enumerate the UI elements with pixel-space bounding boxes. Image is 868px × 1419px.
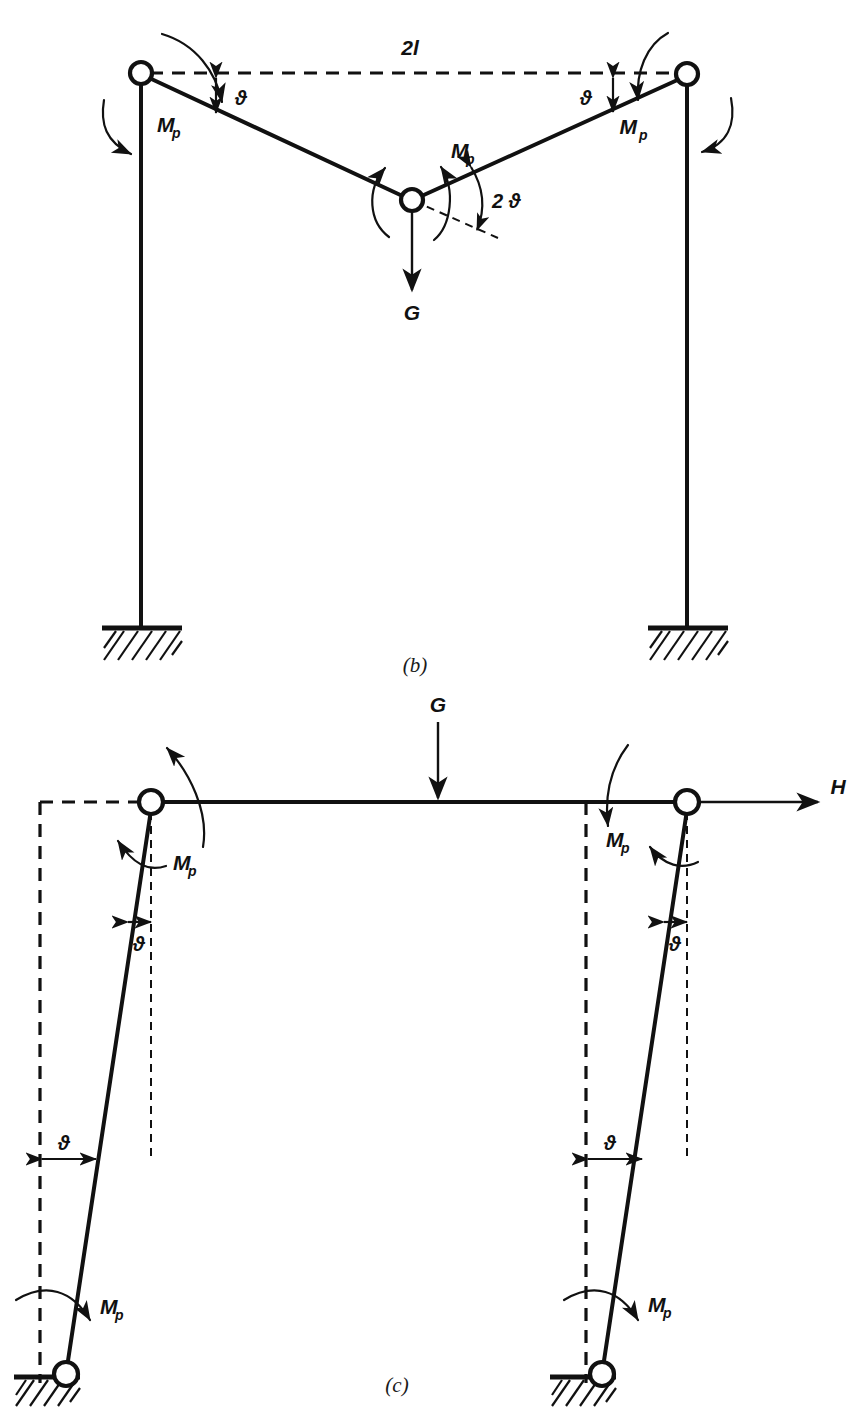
left-mid-rotation-label-c: ϑ [57, 1132, 71, 1154]
right-eaves-hinge-b [676, 63, 698, 85]
right-eaves-moment-label-b: M [620, 115, 638, 138]
horizontal-load-label-c: H [830, 775, 846, 798]
apex-hinge-b [401, 189, 423, 211]
right-base-moment-sub-c: p [662, 1305, 672, 1321]
left-joint-moment-sub-c: p [187, 863, 197, 879]
left-joint-hinge-c [139, 790, 163, 814]
apex-load-label-b: G [404, 301, 420, 324]
left-top-rotation-label-c: ϑ [132, 933, 146, 955]
right-base-hinge-c [590, 1362, 614, 1386]
apex-rotation-label-b: 2 ϑ [491, 190, 522, 212]
left-rotation-label-b: ϑ [234, 87, 248, 109]
right-joint-hinge-c [675, 790, 699, 814]
structural-mechanism-figure: 2l [0, 0, 868, 1419]
figure-root: 2l [0, 0, 868, 1419]
right-top-rotation-label-c: ϑ [668, 933, 682, 955]
right-joint-moment-sub-c: p [620, 840, 630, 856]
panel-c-caption: (c) [385, 1373, 408, 1397]
right-eaves-moment-sub-b: p [638, 127, 648, 143]
apex-moment-sub-b: p [465, 151, 475, 167]
right-mid-rotation-label-c: ϑ [603, 1132, 617, 1154]
left-eaves-hinge-b [130, 62, 152, 84]
left-base-moment-sub-c: p [114, 1307, 124, 1323]
right-rotation-label-b: ϑ [579, 87, 593, 109]
left-eaves-moment-sub-b: p [171, 125, 181, 141]
left-base-hinge-c [54, 1362, 78, 1386]
vertical-load-label-c: G [430, 693, 446, 716]
panel-b-caption: (b) [403, 653, 428, 677]
span-dimension-label: 2l [400, 36, 420, 59]
